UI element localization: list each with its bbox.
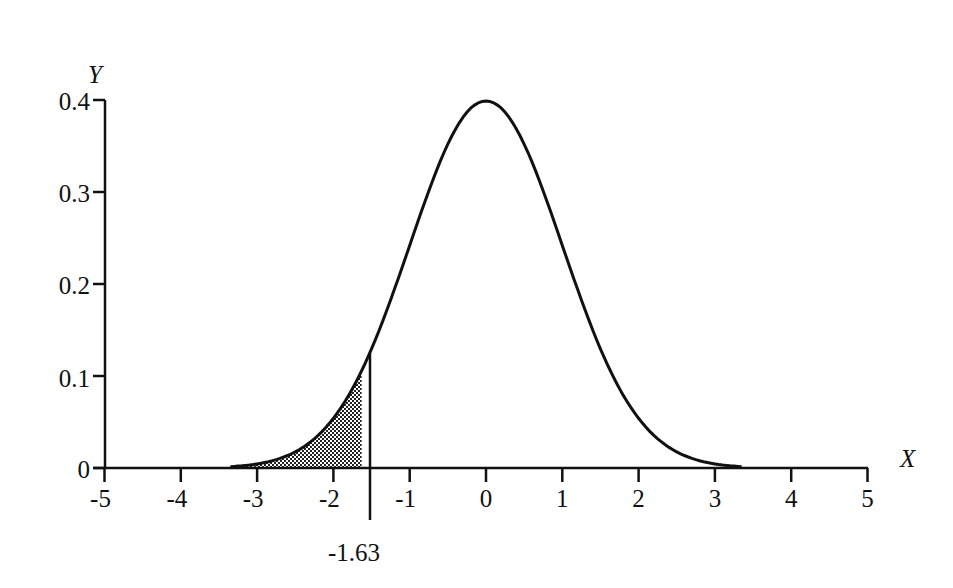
- x-tick-label: -2: [309, 486, 349, 511]
- y-tick-label: 0.3: [30, 181, 90, 206]
- x-tick-label: -3: [233, 486, 273, 511]
- shaded-tail-area: [230, 371, 361, 468]
- y-tick-label: 0.4: [30, 89, 90, 114]
- x-tick-label: 4: [771, 486, 811, 511]
- y-axis-title: Y: [88, 62, 102, 87]
- x-ticks: [105, 468, 868, 482]
- x-tick-label: 0: [466, 486, 506, 511]
- x-tick-label: 1: [542, 486, 582, 511]
- y-tick-label: 0.2: [30, 273, 90, 298]
- cutoff-label: -1.63: [328, 540, 380, 565]
- y-ticks: [93, 100, 105, 468]
- x-axis-title: X: [900, 446, 915, 471]
- x-tick-label: -5: [81, 486, 121, 511]
- x-tick-label: -1: [386, 486, 426, 511]
- x-tick-label: -4: [157, 486, 197, 511]
- x-tick-label: 2: [619, 486, 659, 511]
- y-tick-label: 0: [30, 457, 90, 482]
- y-tick-label: 0.1: [30, 366, 90, 391]
- x-tick-label: 5: [848, 486, 888, 511]
- x-tick-label: 3: [695, 486, 735, 511]
- density-curve: [230, 101, 741, 467]
